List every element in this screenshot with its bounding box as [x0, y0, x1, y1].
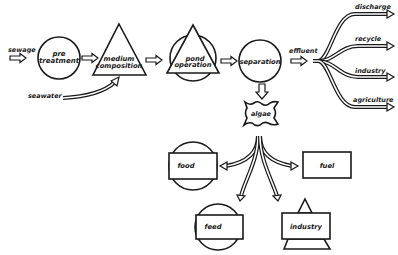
fuel-label: fuel	[320, 162, 335, 170]
recycle-label: recycle	[355, 35, 382, 43]
algae-label: algae	[251, 110, 272, 118]
pond-operation-node: pond operation	[167, 25, 219, 81]
pond-label-2: operation	[174, 61, 211, 69]
sewage-label: sewage	[8, 46, 36, 54]
feed-label: feed	[204, 223, 221, 231]
feed-node: feed	[195, 204, 243, 250]
process-diagram: sewage pre treatment medium composition …	[0, 0, 398, 255]
fuel-node: fuel	[303, 152, 351, 178]
sewage-arrow	[10, 54, 26, 63]
discharge-label: discharge	[355, 3, 391, 11]
arrow-medium-to-pond	[146, 56, 162, 65]
effluent-arrow	[291, 57, 307, 66]
medium-composition-node: medium composition	[93, 24, 146, 75]
separation-node: separation	[239, 40, 281, 82]
seawater-arrow	[63, 77, 119, 98]
food-node: food	[169, 142, 217, 190]
separation-label: separation	[239, 58, 280, 66]
effluent-label: effluent	[289, 47, 318, 55]
pre-treatment-node: pre treatment	[38, 37, 80, 79]
agriculture-label: agriculture	[353, 96, 394, 104]
food-label: food	[177, 162, 194, 170]
industry-output-label: industry	[355, 67, 386, 75]
industry-product-label: industry	[290, 223, 323, 231]
algae-branches	[220, 136, 298, 201]
arrow-pond-to-separation	[221, 57, 237, 66]
algae-node: algae	[244, 102, 278, 126]
medium-label-2: composition	[96, 62, 143, 70]
industry-node: industry	[282, 199, 330, 249]
arrow-separation-to-algae	[256, 84, 268, 99]
pre-treatment-label-2: treatment	[39, 57, 80, 65]
seawater-label: seawater	[28, 92, 63, 100]
